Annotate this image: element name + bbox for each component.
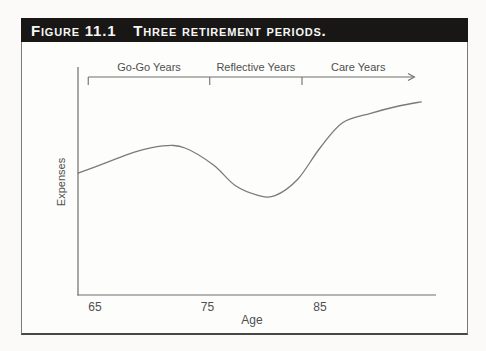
period-label-reflective-years: Reflective Years — [216, 61, 295, 73]
xlabel-age: Age — [241, 313, 263, 327]
period-label-care-years: Care Years — [331, 61, 386, 73]
period-label-go-go-years: Go-Go Years — [117, 61, 181, 73]
x-tick-65: 65 — [88, 300, 102, 314]
scanned-page: Figure 11.1 Three retirement periods. Ex… — [0, 0, 486, 351]
ylabel-expenses: Expenses — [55, 157, 67, 206]
expenses-curve — [78, 102, 421, 197]
retirement-expenses-chart: ExpensesGo-Go YearsReflective YearsCare … — [0, 0, 486, 351]
x-tick-85: 85 — [313, 300, 327, 314]
x-tick-75: 75 — [201, 300, 215, 314]
